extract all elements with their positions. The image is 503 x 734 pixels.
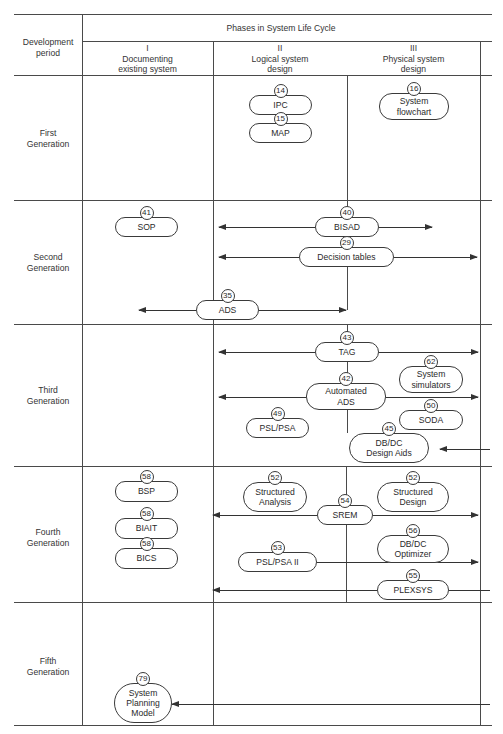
- reference-number-badge: 53: [271, 541, 285, 555]
- node-structured-design: Structured Design: [377, 482, 449, 512]
- table-top-rule: [14, 14, 492, 15]
- period-label-second-generation: Second Generation: [14, 252, 82, 273]
- arrow-tag-left: [219, 352, 315, 353]
- arrowhead-left-icon: [218, 224, 226, 230]
- reference-number-badge: 14: [274, 84, 288, 98]
- node-map: MAP: [249, 123, 312, 143]
- arrow-tag-right: [379, 352, 478, 353]
- arrow-system-planning-model-in: [172, 704, 490, 705]
- period-label-fifth-generation: Fifth Generation: [14, 656, 82, 677]
- arrowhead-left-icon: [212, 587, 220, 593]
- period-label-first-generation: First Generation: [14, 128, 82, 149]
- reference-number-badge: 42: [339, 372, 353, 386]
- node-srem: SREM: [317, 505, 373, 525]
- node-dbdc-design-aids: DB/DC Design Aids: [349, 433, 429, 463]
- reference-number-badge: 56: [406, 524, 420, 538]
- arrowhead-left-icon: [138, 307, 146, 313]
- arrow-automated-ads-right: [386, 397, 478, 398]
- connector-line-automated-down: [347, 410, 348, 433]
- phase-numeral: III: [347, 43, 480, 54]
- reference-number-badge: 35: [221, 289, 235, 303]
- system-life-cycle-diagram: Development period Phases in System Life…: [0, 0, 503, 734]
- connector-line-decision-tables-down: [347, 267, 348, 310]
- reference-number-badge: 79: [136, 672, 150, 686]
- arrow-srem-right: [373, 515, 478, 516]
- arrow-bisad-left: [219, 227, 315, 228]
- reference-number-badge: 58: [140, 470, 154, 484]
- phase-column-header-2: II Logical system design: [213, 43, 347, 75]
- header-bottom-rule: [14, 75, 492, 76]
- arrowhead-left-icon: [218, 254, 226, 260]
- reference-number-badge: 41: [140, 206, 154, 220]
- node-automated-ads: Automated ADS: [306, 383, 386, 410]
- phase-numeral: II: [213, 43, 347, 54]
- arrow-dbdc-design-aids-in: [440, 449, 490, 450]
- reference-number-badge: 50: [424, 399, 438, 413]
- period-column-divider: [82, 14, 83, 725]
- arrowhead-left-icon: [171, 701, 179, 707]
- reference-number-badge: 55: [406, 569, 420, 583]
- reference-number-badge: 15: [274, 112, 288, 126]
- phases-header: Phases in System Life Cycle: [82, 23, 480, 34]
- node-bisad: BISAD: [315, 217, 379, 237]
- arrowhead-right-icon: [471, 394, 479, 400]
- arrow-ads-left: [139, 310, 196, 311]
- table-bottom-rule: [14, 725, 492, 726]
- row-rule-4: [14, 602, 492, 603]
- arrowhead-right-icon: [425, 224, 433, 230]
- arrowhead-right-icon: [471, 512, 479, 518]
- connector-line-bisad-up: [347, 75, 348, 217]
- node-plexsys: PLEXSYS: [377, 580, 449, 600]
- phase-column-header-3: III Physical system design: [347, 43, 480, 75]
- row-rule-3: [14, 466, 492, 467]
- arrow-automated-ads-left: [219, 397, 306, 398]
- reference-number-badge: 43: [340, 331, 354, 345]
- row-rule-1: [14, 200, 492, 201]
- arrowhead-left-icon: [212, 512, 220, 518]
- node-psl-psa-ii: PSL/PSA II: [238, 552, 317, 572]
- node-tag: TAG: [315, 342, 379, 362]
- reference-number-badge: 52: [268, 471, 282, 485]
- reference-number-badge: 62: [424, 355, 438, 369]
- node-system-planning-model: System Planning Model: [114, 683, 172, 723]
- node-bics: BICS: [115, 548, 178, 569]
- phase-numeral: I: [82, 43, 213, 54]
- arrow-bisad-right: [379, 227, 432, 228]
- node-dbdc-optimizer: DB/DC Optimizer: [377, 535, 449, 563]
- reference-number-badge: 29: [340, 236, 354, 250]
- arrow-srem-left: [213, 515, 317, 516]
- reference-number-badge: 58: [140, 537, 154, 551]
- node-system-simulators: System simulators: [399, 366, 463, 393]
- reference-number-badge: 58: [140, 507, 154, 521]
- arrowhead-right-icon: [471, 559, 479, 565]
- node-system-flowchart: System flowchart: [379, 93, 449, 120]
- phase-label: Physical system design: [347, 54, 480, 75]
- row-rule-2: [14, 324, 492, 325]
- reference-number-badge: 52: [406, 471, 420, 485]
- development-period-header: Development period: [14, 37, 82, 58]
- arrow-decision-tables-right: [394, 257, 477, 258]
- arrow-plexsys-right-tail: [449, 590, 490, 591]
- arrow-plexsys-left: [213, 590, 377, 591]
- node-structured-analysis: Structured Analysis: [243, 482, 307, 512]
- node-ads: ADS: [196, 300, 259, 320]
- arrowhead-right-icon: [339, 307, 347, 313]
- node-sop: SOP: [115, 217, 178, 237]
- arrow-decision-tables-left: [219, 257, 299, 258]
- arrowhead-left-icon: [218, 394, 226, 400]
- phases-header-rule: [82, 41, 492, 42]
- period-label-fourth-generation: Fourth Generation: [14, 527, 82, 548]
- reference-number-badge: 16: [407, 82, 421, 96]
- reference-number-badge: 49: [271, 407, 285, 421]
- phase-label: Logical system design: [213, 54, 347, 75]
- arrowhead-right-icon: [471, 349, 479, 355]
- phase-label: Documenting existing system: [82, 54, 213, 75]
- arrow-ads-right: [259, 310, 346, 311]
- node-psl-psa: PSL/PSA: [246, 418, 309, 438]
- arrowhead-left-icon: [218, 349, 226, 355]
- reference-number-badge: 40: [340, 206, 354, 220]
- reference-number-badge: 54: [338, 494, 352, 508]
- node-bsp: BSP: [115, 481, 178, 502]
- arrowhead-right-icon: [470, 254, 478, 260]
- node-decision-tables: Decision tables: [299, 247, 394, 267]
